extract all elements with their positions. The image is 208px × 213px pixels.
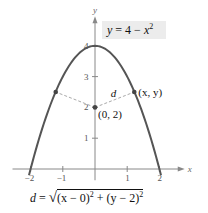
formula-term-1: (x − 0) bbox=[57, 191, 90, 205]
distance-formula: d = √(x − 0)2 + (y − 2)2 bbox=[30, 189, 143, 206]
equation-exponent: 2 bbox=[149, 22, 153, 31]
x-tick-label: −1 bbox=[57, 173, 67, 183]
formula-eq: = bbox=[36, 191, 49, 205]
point-center-label: (0, 2) bbox=[98, 108, 122, 121]
x-tick-label: 1 bbox=[125, 173, 130, 183]
formula-term-2: (y − 2) bbox=[107, 191, 140, 205]
curve-point-right-marker bbox=[132, 90, 137, 95]
curve-point-left-marker bbox=[53, 90, 58, 95]
sqrt-symbol: √ bbox=[49, 189, 57, 205]
y-axis-label: y bbox=[92, 5, 97, 15]
point-xy-label: (x, y) bbox=[138, 86, 162, 99]
distance-segment bbox=[56, 92, 95, 107]
y-tick-label: 1 bbox=[84, 133, 89, 143]
y-tick-label: 3 bbox=[84, 72, 89, 82]
x-axis-arrow bbox=[178, 167, 185, 172]
distance-d-label: d bbox=[111, 87, 117, 99]
y-axis-arrow bbox=[93, 16, 98, 23]
equation-eq: = 4 − bbox=[112, 23, 144, 37]
center-marker bbox=[93, 105, 98, 110]
formula-plus: + bbox=[94, 191, 107, 205]
formula-radicand: (x − 0)2 + (y − 2)2 bbox=[57, 189, 143, 205]
formula-exp-2: 2 bbox=[139, 190, 143, 199]
equation-label: y = 4 − x2 bbox=[107, 22, 153, 38]
x-axis-label: x bbox=[187, 164, 192, 174]
y-tick-label: 2 bbox=[84, 102, 89, 112]
